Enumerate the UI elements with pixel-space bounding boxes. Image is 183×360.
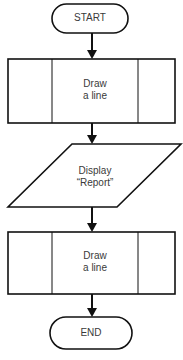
arrow-draw1-to-display — [87, 123, 97, 144]
arrow-draw2-to-end — [87, 294, 97, 317]
draw2-label-line2: a line — [52, 262, 138, 274]
arrow-display-to-draw2 — [87, 207, 97, 232]
display-label-line1: Display — [52, 165, 138, 177]
draw1-label: Draw a line — [52, 78, 138, 102]
draw1-label-line2: a line — [52, 90, 138, 102]
arrow-start-to-draw1 — [87, 33, 97, 59]
draw2-label: Draw a line — [52, 250, 138, 274]
display-label: Display “Report” — [52, 165, 138, 189]
display-label-line2: “Report” — [52, 177, 138, 189]
start-label: START — [52, 12, 128, 24]
draw1-label-line1: Draw — [52, 78, 138, 90]
end-label: END — [50, 327, 132, 339]
draw2-label-line1: Draw — [52, 250, 138, 262]
